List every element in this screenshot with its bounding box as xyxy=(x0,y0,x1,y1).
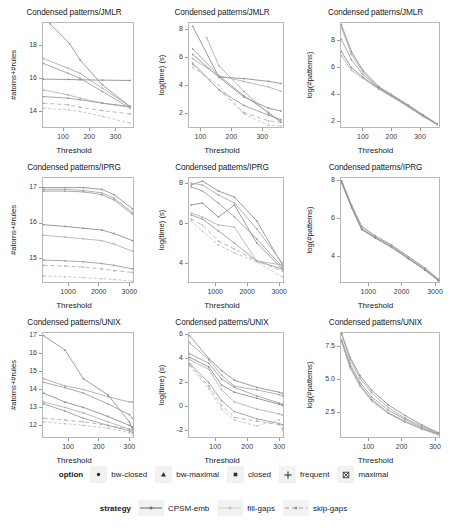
series-point xyxy=(43,187,45,189)
series-point xyxy=(113,233,115,235)
legend-label-bw-maximal: bw-maximal xyxy=(176,470,219,479)
plot-area-unix-logpatterns: log(#patterns)2.55.07.5100200300Threshol… xyxy=(296,332,455,468)
legend-strategy-title: strategy xyxy=(100,504,131,513)
series-point xyxy=(341,182,343,184)
series-point xyxy=(113,270,115,272)
series-point xyxy=(256,387,258,389)
series-point xyxy=(43,421,45,423)
series-point xyxy=(208,388,210,390)
series-point xyxy=(190,182,192,184)
series-point xyxy=(101,268,103,270)
series-point xyxy=(79,72,81,74)
series-point xyxy=(437,280,439,282)
bw-maximal-glyph-icon xyxy=(155,466,172,483)
series-point xyxy=(202,218,204,220)
series-point xyxy=(113,264,115,266)
panel-iprg-atoms-rules: Condensed patterns/IPRG#atoms+#rules1516… xyxy=(0,163,148,313)
series-point xyxy=(132,213,134,215)
series-point xyxy=(83,238,85,240)
series-point xyxy=(129,421,131,423)
series-line xyxy=(193,26,281,111)
series-line xyxy=(193,49,281,123)
legend-key-fill-gaps[interactable]: fill-gaps xyxy=(217,500,283,516)
series-point xyxy=(101,192,103,194)
legend-key-skip-gaps[interactable]: skip-gaps xyxy=(283,500,355,516)
legend-key-maximal[interactable]: maximal xyxy=(337,466,396,483)
series-point xyxy=(43,401,45,403)
series-point xyxy=(221,375,223,377)
series-layer xyxy=(296,177,455,313)
series-point xyxy=(268,86,270,88)
series-point xyxy=(282,430,284,432)
panel-unix-logpatterns: Condensed patterns/UNIXlog(#patterns)2.5… xyxy=(296,318,455,468)
series-point xyxy=(43,234,45,236)
series-point xyxy=(190,214,192,216)
series-point xyxy=(280,83,282,85)
series-point xyxy=(362,73,364,75)
fill-gaps-line-icon xyxy=(217,500,243,516)
legend-key-frequent[interactable]: frequent xyxy=(279,466,337,483)
legend-key-bw-closed[interactable]: bw-closed xyxy=(90,466,155,483)
series-point xyxy=(218,75,220,77)
plot-area-jmlr-atoms-rules: #atoms+#rules141618100200300Threshold xyxy=(0,22,148,158)
series-point xyxy=(208,366,210,368)
series-point xyxy=(359,385,361,387)
legend-label-frequent: frequent xyxy=(300,470,329,479)
plot-area-iprg-logpatterns: log(#patterns)468100020003000Threshold xyxy=(296,177,455,313)
series-line xyxy=(50,24,130,107)
series-point xyxy=(83,425,85,427)
series-point xyxy=(349,359,351,361)
series-layer xyxy=(296,332,455,468)
series-point xyxy=(243,95,245,97)
panel-title-jmlr-logpatterns: Condensed patterns/JMLR xyxy=(296,8,455,17)
series-point xyxy=(371,389,373,391)
series-point xyxy=(282,262,284,264)
series-point xyxy=(359,378,361,380)
series-point xyxy=(371,396,373,398)
series-point xyxy=(79,99,81,101)
series-point xyxy=(221,370,223,372)
series-point xyxy=(282,395,284,397)
series-point xyxy=(67,104,69,106)
series-line xyxy=(190,363,283,424)
series-point xyxy=(64,349,66,351)
legend-key-closed[interactable]: closed xyxy=(227,466,279,483)
series-point xyxy=(371,392,373,394)
bw-closed-glyph-icon xyxy=(90,466,107,483)
series-point xyxy=(64,187,66,189)
series-point xyxy=(234,391,236,393)
series-point xyxy=(407,258,409,260)
series-point xyxy=(359,382,361,384)
series-layer xyxy=(148,22,296,158)
series-point xyxy=(189,356,191,358)
series-line xyxy=(190,360,283,415)
series-point xyxy=(101,189,103,191)
series-point xyxy=(341,334,343,336)
panel-title-unix-logtime: Condensed patterns/UNIX xyxy=(148,318,296,327)
series-line xyxy=(341,52,437,124)
series-line xyxy=(342,333,439,432)
series-point xyxy=(64,419,66,421)
series-point xyxy=(129,432,131,434)
series-point xyxy=(387,407,389,409)
series-point xyxy=(341,39,343,41)
series-layer xyxy=(0,332,148,468)
series-point xyxy=(83,389,85,391)
series-point xyxy=(83,191,85,193)
legend-key-bw-maximal[interactable]: bw-maximal xyxy=(155,466,227,483)
series-point xyxy=(113,194,115,196)
series-point xyxy=(268,114,270,116)
legend-key-cpsm-emb[interactable]: CPSM-emb xyxy=(138,500,217,516)
series-line xyxy=(191,183,282,263)
series-point xyxy=(278,419,280,421)
series-point xyxy=(43,335,45,337)
series-line xyxy=(43,79,130,80)
series-point xyxy=(189,365,191,367)
series-point xyxy=(107,416,109,418)
series-point xyxy=(67,68,69,70)
legend-option-title: option xyxy=(59,470,83,479)
series-point xyxy=(218,89,220,91)
series-point xyxy=(234,204,236,206)
series-point xyxy=(278,403,280,405)
series-point xyxy=(221,408,223,410)
